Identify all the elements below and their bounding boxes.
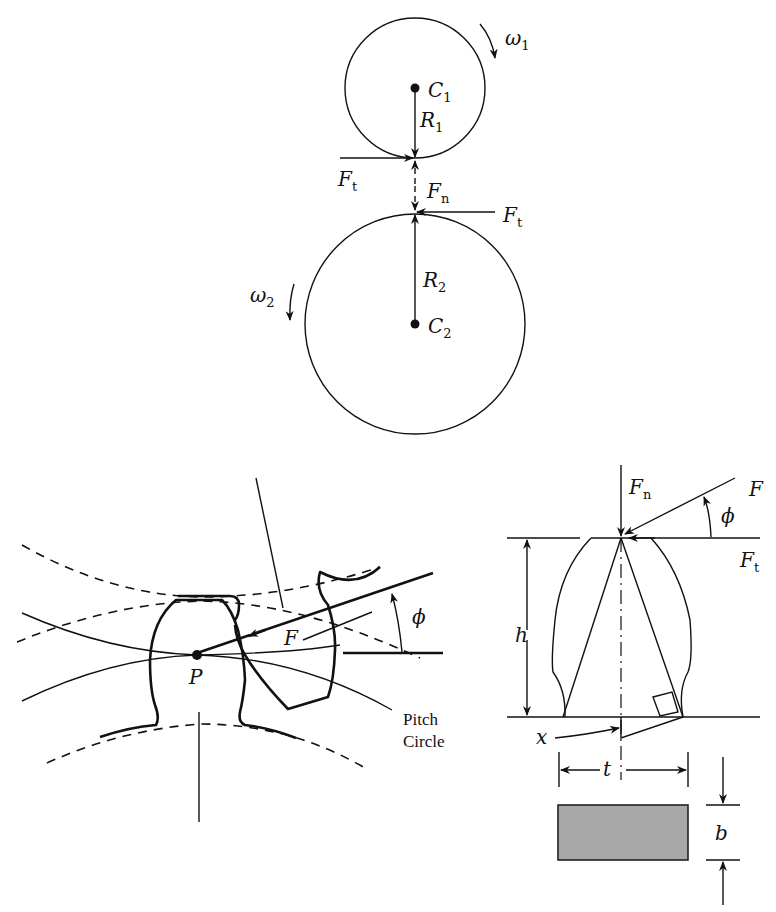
omega2-rotation-arrow bbox=[290, 284, 294, 320]
x-leader-arrow bbox=[555, 728, 619, 738]
gear-force-figure: ω1 C1 R1 Ft Fn Ft R2 C2 ω2 bbox=[0, 0, 776, 912]
force-f-label: F bbox=[283, 626, 299, 650]
force-f-arrow bbox=[249, 630, 265, 636]
x-triangle bbox=[621, 717, 683, 738]
ft-label-right: Ft bbox=[739, 548, 760, 575]
pitch-circle-label-line2: Circle bbox=[403, 732, 445, 751]
ft-left-label: Ft bbox=[337, 167, 358, 194]
f-label-right: F bbox=[748, 477, 764, 501]
r2-label: R2 bbox=[422, 268, 446, 295]
right-angle-marker bbox=[653, 692, 678, 716]
pitch-point-label: P bbox=[188, 665, 203, 689]
t-label: t bbox=[603, 757, 612, 781]
lower-pitch-circle bbox=[22, 645, 340, 701]
line-of-action bbox=[253, 573, 433, 634]
upper-tooth-leader bbox=[256, 478, 283, 608]
fn-label: Fn bbox=[426, 179, 450, 206]
bottom-left-diagram: P F ϕ Pitch Circle bbox=[17, 478, 445, 822]
force-f-leader bbox=[303, 612, 372, 640]
h-label: h bbox=[515, 623, 528, 647]
bottom-right-diagram: Fn F ϕ Ft h x t b bbox=[507, 465, 764, 905]
omega1-rotation-arrow bbox=[480, 24, 495, 58]
phi-label-right: ϕ bbox=[721, 504, 735, 528]
fn-label-right: Fn bbox=[628, 475, 652, 502]
pressure-angle-arc bbox=[392, 594, 402, 652]
omega2-label: ω2 bbox=[250, 283, 275, 310]
b-label: b bbox=[715, 821, 728, 845]
omega1-label: ω1 bbox=[505, 26, 530, 53]
lower-gear-addendum-circle bbox=[17, 601, 420, 658]
pitch-circle-label-line1: Pitch bbox=[403, 710, 438, 729]
lower-gear-dedendum-circle bbox=[47, 724, 365, 768]
r1-label: R1 bbox=[419, 108, 443, 135]
pressure-angle-arc-right bbox=[704, 497, 711, 537]
c1-label: C1 bbox=[428, 78, 452, 105]
tooth-profile-right bbox=[651, 538, 691, 717]
ft-right-label: Ft bbox=[502, 203, 523, 230]
tooth-cross-section bbox=[558, 805, 688, 860]
upper-gear-addendum-circle bbox=[22, 545, 380, 597]
parabola-line-right bbox=[621, 538, 683, 717]
x-label: x bbox=[536, 725, 547, 749]
c2-label: C2 bbox=[428, 314, 452, 341]
pitch-point-p bbox=[192, 650, 202, 660]
top-diagram: ω1 C1 R1 Ft Fn Ft R2 C2 ω2 bbox=[250, 18, 530, 434]
upper-pitch-circle bbox=[22, 613, 392, 710]
phi-label-left: ϕ bbox=[412, 605, 426, 629]
